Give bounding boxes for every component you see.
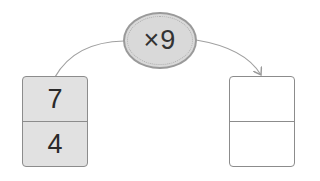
multiply-operator: ×9 [123,12,197,69]
input-top-cell: 7 [23,77,87,122]
output-top-cell[interactable] [230,77,294,122]
input-to-operator-line [55,41,124,77]
output-bottom-cell[interactable] [230,122,294,166]
input-box: 7 4 [22,76,88,167]
operator-label: ×9 [144,25,177,56]
input-bottom-cell: 4 [23,122,87,166]
output-box [229,76,295,167]
operator-to-output-arrow [196,40,261,75]
